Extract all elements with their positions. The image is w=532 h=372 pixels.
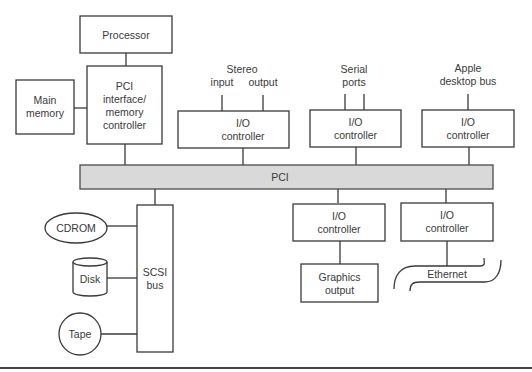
cdrom-label: CDROM [56, 222, 96, 234]
disk-device: Disk [73, 258, 107, 296]
graphics-output-box: Graphics output [301, 264, 378, 302]
processor-box: Processor [80, 16, 172, 53]
scsi-bus-box: SCSI bus [137, 205, 173, 352]
pci-system-diagram: Processor PCI interface/ memory controll… [0, 0, 532, 372]
adb-label-line-1: Apple [455, 62, 482, 74]
tape-label: Tape [69, 328, 92, 340]
stereo-io-controller-box: I/O controller [178, 111, 289, 148]
pci-interface-line-3: memory [106, 106, 145, 118]
graphics-io-line-1: I/O [332, 210, 346, 222]
disk-label: Disk [80, 273, 101, 285]
serial-label-line-2: ports [342, 76, 365, 88]
adb-label-line-2: desktop bus [440, 75, 497, 87]
ethernet-io-controller-box: I/O controller [401, 203, 493, 241]
pci-bus-label: PCI [271, 171, 289, 183]
serial-io-controller-box: I/O controller [310, 110, 401, 147]
stereo-io-line-2: controller [221, 130, 265, 142]
adb-io-line-2: controller [446, 129, 490, 141]
graphics-io-controller-box: I/O controller [293, 204, 385, 241]
stereo-io-line-1: I/O [236, 117, 250, 129]
cdrom-device: CDROM [45, 213, 107, 243]
pci-bus: PCI [80, 165, 493, 189]
graphics-output-line-2: output [325, 284, 354, 296]
serial-label-line-1: Serial [341, 63, 368, 75]
stereo-output-label: output [248, 76, 277, 88]
processor-label: Processor [102, 29, 150, 41]
pci-interface-line-2: interface/ [103, 93, 146, 105]
graphics-io-line-2: controller [317, 223, 361, 235]
scsi-bus-line-1: SCSI [143, 266, 168, 278]
graphics-output-line-1: Graphics [318, 271, 360, 283]
pci-interface-line-1: PCI [116, 80, 134, 92]
serial-io-line-2: controller [334, 129, 378, 141]
main-memory-box: Main memory [16, 80, 74, 134]
ethernet-io-line-2: controller [425, 222, 469, 234]
ethernet-label: Ethernet [427, 268, 467, 280]
main-memory-line-2: memory [26, 107, 65, 119]
scsi-bus-line-2: bus [147, 279, 164, 291]
stereo-input-label: input [211, 76, 234, 88]
adb-io-controller-box: I/O controller [422, 110, 514, 147]
ethernet-io-line-1: I/O [440, 209, 454, 221]
pci-interface-memory-controller-box: PCI interface/ memory controller [87, 66, 162, 144]
serial-io-line-1: I/O [348, 116, 362, 128]
adb-io-line-1: I/O [461, 116, 475, 128]
tape-device: Tape [59, 313, 101, 355]
main-memory-line-1: Main [34, 94, 57, 106]
stereo-label: Stereo [227, 63, 258, 75]
pci-interface-line-4: controller [103, 119, 147, 131]
